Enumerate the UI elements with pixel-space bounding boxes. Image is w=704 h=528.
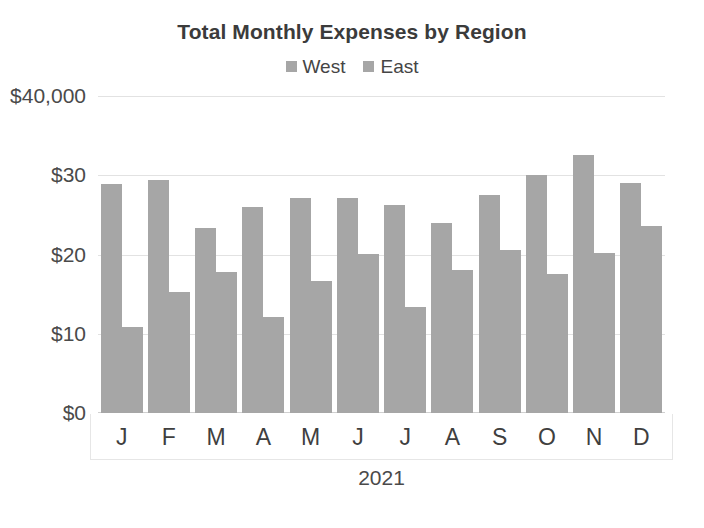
x-axis-tick-label: A (429, 414, 476, 460)
chart-container: Total Monthly Expenses by Region WestEas… (0, 0, 704, 528)
x-axis-tick-label: F (145, 414, 192, 460)
legend-label: East (380, 57, 418, 76)
bar-west-3[interactable] (242, 207, 263, 413)
legend-label: West (303, 57, 346, 76)
bar-east-3[interactable] (263, 317, 284, 413)
bar-west-10[interactable] (573, 155, 594, 413)
bar-east-9[interactable] (547, 274, 568, 413)
bar-east-5[interactable] (358, 254, 379, 413)
x-axis-tick-label: S (476, 414, 523, 460)
x-axis-tick-label: N (571, 414, 618, 460)
x-axis-tick-label: A (240, 414, 287, 460)
bar-east-11[interactable] (641, 226, 662, 413)
x-axis-tick-label: M (193, 414, 240, 460)
bar-west-11[interactable] (620, 183, 641, 413)
bar-east-1[interactable] (169, 292, 190, 413)
chart-title: Total Monthly Expenses by Region (0, 20, 704, 44)
bar-east-7[interactable] (452, 270, 473, 413)
bar-west-1[interactable] (148, 180, 169, 413)
bar-east-2[interactable] (216, 272, 237, 413)
legend-item-west[interactable]: West (286, 57, 346, 76)
legend-swatch-icon (286, 61, 297, 72)
bar-east-4[interactable] (311, 281, 332, 413)
x-axis-tick-label: M (287, 414, 334, 460)
chart-legend: WestEast (0, 57, 704, 76)
bar-west-2[interactable] (195, 228, 216, 413)
x-axis-title: 2021 (98, 466, 665, 490)
bar-west-5[interactable] (337, 198, 358, 413)
bar-west-6[interactable] (384, 205, 405, 413)
y-axis-tick-label: $30 (51, 163, 86, 187)
bar-east-6[interactable] (405, 307, 426, 413)
legend-item-east[interactable]: East (363, 57, 418, 76)
bar-west-4[interactable] (290, 198, 311, 413)
bar-east-10[interactable] (594, 253, 615, 413)
bar-west-8[interactable] (479, 195, 500, 413)
x-axis-tick-label: J (334, 414, 381, 460)
bar-west-7[interactable] (431, 223, 452, 413)
bar-west-0[interactable] (101, 184, 122, 413)
bar-east-8[interactable] (500, 250, 521, 413)
y-axis-labels: $0$10$20$30$40,000 (0, 96, 92, 413)
y-axis-tick-label: $20 (51, 243, 86, 267)
x-axis-tick-label: D (618, 414, 665, 460)
y-axis-tick-label: $10 (51, 322, 86, 346)
x-axis-tick-label: O (523, 414, 570, 460)
legend-swatch-icon (363, 61, 374, 72)
bars-layer (98, 96, 665, 413)
bar-west-9[interactable] (526, 175, 547, 413)
bar-east-0[interactable] (122, 327, 143, 413)
y-axis-tick-label: $40,000 (10, 84, 86, 108)
x-axis-tick-label: J (98, 414, 145, 460)
x-axis-tick-label: J (382, 414, 429, 460)
y-axis-tick-label: $0 (63, 401, 86, 425)
x-axis-labels: JFMAMJJASOND (98, 414, 665, 460)
